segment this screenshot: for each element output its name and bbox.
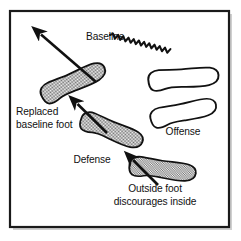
label-outside-foot-line2: discourages inside (114, 196, 197, 207)
footwork-diagram: Baseline Replaced baseline foot Defense … (0, 0, 241, 241)
label-outside-foot-line1: Outside foot (128, 183, 182, 194)
label-replaced-baseline-foot-line1: Replaced (16, 106, 59, 117)
label-offense: Offense (166, 126, 201, 137)
label-replaced-baseline-foot-line2: baseline foot (16, 119, 73, 130)
figure-root: Baseline Replaced baseline foot Defense … (0, 0, 241, 241)
label-baseline: Baseline (86, 31, 125, 42)
label-defense: Defense (73, 154, 111, 165)
